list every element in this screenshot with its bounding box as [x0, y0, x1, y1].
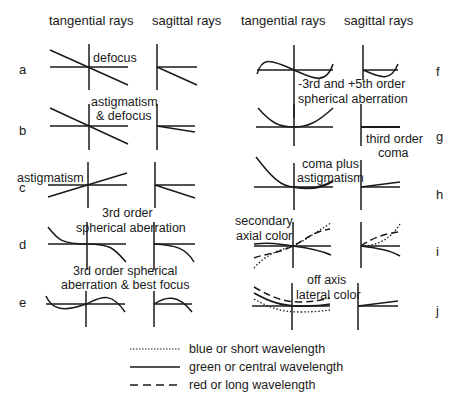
row-label-a: a: [19, 63, 26, 77]
header-right-tangential: tangential rays: [241, 14, 326, 28]
legend-item-green: green or central wavelength: [189, 360, 343, 374]
plot-c-tangential: [48, 162, 127, 208]
plot-e-tangential: [46, 291, 125, 327]
annotation-e-line2: aberration & best focus: [61, 278, 190, 292]
annotation-f-line2: spherical aberration: [298, 92, 408, 106]
annotation-g-line1: third order: [366, 132, 423, 146]
annotation-b-line2: & defocus: [96, 109, 152, 123]
legend-swatches: [130, 349, 180, 385]
header-left-sagittal: sagittal rays: [152, 14, 221, 28]
annotation-h-line1: coma plus: [302, 157, 359, 171]
row-label-f: f: [436, 65, 440, 79]
annotation-a: defocus: [93, 51, 137, 65]
annotation-e-line1: 3rd order spherical: [73, 264, 177, 278]
plot-h-sagittal: [361, 160, 400, 210]
plot-j-sagittal: [358, 283, 398, 330]
legend-item-red: red or long wavelength: [189, 378, 315, 392]
plot-c-sagittal: [155, 162, 195, 208]
annotation-d-line1: 3rd order: [102, 206, 153, 220]
annotation-j-line1: off axis: [307, 273, 346, 287]
row-label-g: g: [436, 130, 443, 144]
row-label-b: b: [19, 124, 26, 138]
plot-b-sagittal: [157, 104, 195, 150]
row-label-i: i: [436, 245, 439, 259]
header-left-tangential: tangential rays: [49, 14, 134, 28]
header-right-sagittal: sagittal rays: [344, 14, 413, 28]
legend-item-blue: blue or short wavelength: [189, 342, 325, 356]
annotation-j-line2: lateral color: [296, 288, 361, 302]
annotation-i-line2: axial color: [236, 229, 292, 243]
annotation-d-line2: spherical aberration: [76, 221, 186, 235]
row-label-e: e: [19, 296, 26, 310]
plot-i-sagittal: [361, 222, 400, 268]
annotation-g-line2: coma: [378, 146, 409, 160]
annotation-f-line1: -3rd and +5th order: [298, 77, 405, 91]
row-label-d: d: [19, 238, 26, 252]
row-label-j: j: [436, 304, 439, 318]
annotation-b-line1: astigmatism: [91, 95, 158, 109]
plot-f-sagittal: [363, 45, 398, 80]
plot-a-sagittal: [157, 44, 197, 90]
annotation-c: astigmatism: [17, 171, 84, 185]
plot-g-tangential: [256, 104, 333, 146]
annotation-i-line1: secondary: [235, 214, 293, 228]
annotation-h-line2: astigmatism: [297, 171, 364, 185]
plot-e-sagittal: [154, 291, 192, 327]
row-label-h: h: [436, 188, 443, 202]
